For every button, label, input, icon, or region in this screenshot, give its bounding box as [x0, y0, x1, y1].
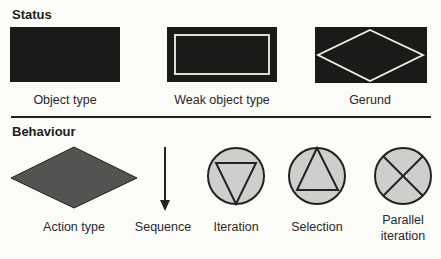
action-type-label: Action type	[43, 219, 105, 235]
selection-icon	[289, 148, 345, 204]
section-divider	[11, 116, 431, 118]
object-type-label: Object type	[33, 92, 96, 108]
iteration-label: Iteration	[213, 219, 258, 235]
iteration-icon	[208, 148, 264, 204]
gerund-icon	[315, 27, 427, 83]
parallel-iteration-label-line2: iteration	[381, 228, 425, 244]
behaviour-heading: Behaviour	[12, 124, 76, 139]
gerund-label: Gerund	[349, 92, 391, 108]
parallel-iteration-icon	[375, 148, 431, 204]
sequence-arrow-icon	[160, 147, 170, 211]
sequence-label: Sequence	[135, 219, 191, 235]
parallel-iteration-label-line1: Parallel	[382, 212, 424, 228]
selection-label: Selection	[291, 219, 342, 235]
action-type-icon	[11, 147, 137, 208]
weak-object-type-icon	[167, 27, 277, 82]
object-type-icon	[10, 27, 120, 82]
weak-object-type-label: Weak object type	[174, 92, 270, 108]
